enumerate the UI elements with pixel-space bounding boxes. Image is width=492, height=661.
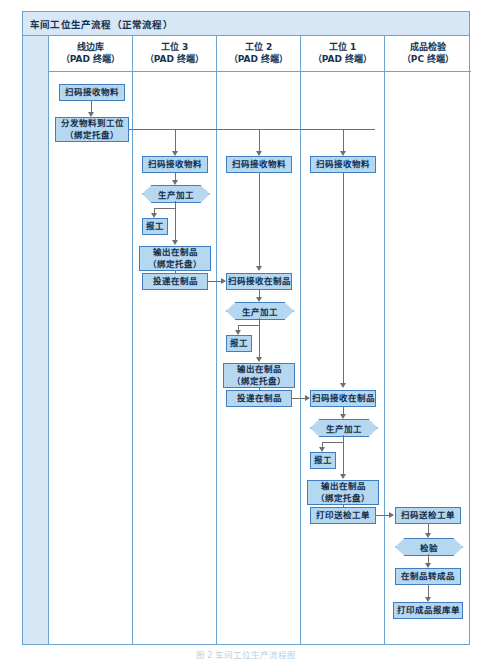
node-scan-receive-wip-w3[interactable]: 扫码接收在制品 [310, 390, 376, 407]
connector-w3-branch [322, 442, 344, 443]
lane-header-4: 成品检验 （PC 终端） [385, 36, 471, 72]
connector-bus-drop-w3 [343, 129, 344, 153]
node-report-work-w3[interactable]: 报工 [310, 452, 336, 469]
lane-terminal-1: （PAD 终端） [145, 54, 204, 65]
node-label: 投递在制品 [237, 393, 282, 404]
arrowhead-w2-4 [256, 357, 262, 362]
node-label: 投递在制品 [153, 276, 198, 287]
connector-w1-3 [175, 201, 176, 243]
node-label: 扫码接收物料 [316, 159, 370, 170]
node-distribute-material-w0[interactable]: 分发物料到工位 （绑定托盘） [55, 117, 129, 142]
connector-w3-1 [343, 173, 344, 386]
node-output-wip-w3[interactable]: 输出在制品 （绑定托盘） [307, 480, 379, 505]
node-label: 扫码接收在制品 [228, 276, 291, 287]
arrowhead-w1-3 [172, 240, 178, 245]
node-label: 检验 [420, 541, 438, 553]
node-print-inspection-order-w3[interactable]: 打印送检工单 [310, 507, 376, 524]
node-scan-receive-material-w0[interactable]: 扫码接收物料 [59, 84, 125, 101]
node-label: 扫码送检工单 [401, 510, 455, 521]
node-wip-to-finished-goods-w4[interactable]: 在制品转成品 [395, 568, 461, 585]
node-report-work-w1[interactable]: 报工 [142, 218, 168, 235]
lane-body-0 [49, 72, 133, 644]
node-print-finished-goods-receipt-w4[interactable]: 打印成品报库单 [393, 602, 463, 619]
node-label-line1: 输出在制品 [153, 247, 198, 258]
node-label: 在制品转成品 [401, 571, 455, 582]
node-label-line1: 分发物料到工位 [61, 118, 124, 129]
node-report-work-w2[interactable]: 报工 [226, 335, 252, 352]
node-output-wip-w1[interactable]: 输出在制品 （绑定托盘） [139, 246, 211, 271]
node-label: 打印成品报库单 [397, 605, 460, 616]
arrowhead-w1-1 [172, 180, 178, 185]
node-label: 扫码接收在制品 [312, 393, 375, 404]
node-label: 报工 [314, 455, 332, 466]
lane-title-0: 线边库 [77, 42, 104, 53]
node-label-line2: （绑定托盘） [148, 259, 202, 270]
arrowhead-w2-2 [256, 297, 262, 302]
node-label: 扫码接收物料 [65, 87, 119, 98]
lane-header-3: 工位 1 （PAD 终端） [301, 36, 385, 72]
node-label-line2: （绑定托盘） [316, 493, 370, 504]
lane-header-row: 线边库 （PAD 终端） 工位 3 （PAD 终端） 工位 2 （PAD 终端）… [49, 36, 469, 72]
lane-title-4: 成品检验 [410, 42, 446, 53]
arrowhead-w2-1 [256, 266, 262, 271]
arrowhead-w3-2 [340, 414, 346, 419]
node-label-line2: （绑定托盘） [65, 130, 119, 141]
node-label: 报工 [146, 221, 164, 232]
node-production-process-w1[interactable]: 生产加工 [142, 185, 210, 203]
flowchart-frame: 车间工位生产流程（正常流程） 线边库 （PAD 终端） 工位 3 （PAD 终端… [22, 11, 470, 645]
arrowhead-w3-1 [340, 383, 346, 388]
node-label: 打印送检工单 [316, 510, 370, 521]
node-production-process-w3[interactable]: 生产加工 [310, 419, 378, 437]
node-deliver-wip-w1[interactable]: 投递在制品 [142, 273, 208, 290]
arrowhead-w4-1 [425, 533, 431, 538]
lane-title-1: 工位 3 [161, 42, 188, 53]
node-label: 生产加工 [326, 422, 362, 434]
node-inspection-w4[interactable]: 检验 [395, 538, 463, 556]
node-label-line1: 输出在制品 [321, 481, 366, 492]
node-label: 报工 [230, 338, 248, 349]
node-output-wip-w2[interactable]: 输出在制品 （绑定托盘） [223, 363, 295, 388]
node-scan-inspection-order-w4[interactable]: 扫码送检工单 [395, 507, 461, 524]
figure-caption: 图 2 车间工位生产流程图 [0, 648, 492, 660]
node-scan-receive-wip-w2[interactable]: 扫码接收在制品 [226, 273, 292, 290]
node-label: 扫码接收物料 [148, 159, 202, 170]
diagram-title: 车间工位生产流程（正常流程） [23, 12, 469, 36]
node-scan-receive-material-w1[interactable]: 扫码接收物料 [142, 156, 208, 173]
connector-w2-branch [238, 325, 260, 326]
node-deliver-wip-w2[interactable]: 投递在制品 [226, 390, 292, 407]
arrowhead-w3-to-w4 [389, 512, 394, 518]
lane-terminal-4: （PC 终端） [402, 54, 454, 65]
node-scan-receive-material-w2[interactable]: 扫码接收物料 [226, 156, 292, 173]
connector-w3-4 [343, 435, 344, 477]
connector-distribution-bus [129, 129, 375, 130]
lane-title-2: 工位 2 [245, 42, 272, 53]
node-label: 生产加工 [158, 188, 194, 200]
connector-w1-branch [154, 208, 176, 209]
connector-bus-drop-w1 [175, 129, 176, 153]
lane-title-3: 工位 1 [329, 42, 356, 53]
lane-header-2: 工位 2 （PAD 终端） [217, 36, 301, 72]
lane-terminal-0: （PAD 终端） [61, 54, 120, 65]
node-scan-receive-material-w3[interactable]: 扫码接收物料 [310, 156, 376, 173]
lane-header-0: 线边库 （PAD 终端） [49, 36, 133, 72]
arrowhead-w3-4 [340, 474, 346, 479]
node-label: 生产加工 [242, 305, 278, 317]
connector-w2-4 [259, 318, 260, 360]
connector-w2-1 [259, 173, 260, 269]
lane-terminal-2: （PAD 终端） [229, 54, 288, 65]
connector-bus-drop-w2 [259, 129, 260, 153]
lane-terminal-3: （PAD 终端） [313, 54, 372, 65]
lane-gutter [23, 36, 49, 644]
node-label-line1: 输出在制品 [237, 364, 282, 375]
node-label-line2: （绑定托盘） [232, 376, 286, 387]
node-production-process-w2[interactable]: 生产加工 [226, 302, 294, 320]
node-label: 扫码接收物料 [232, 159, 286, 170]
lane-header-1: 工位 3 （PAD 终端） [133, 36, 217, 72]
